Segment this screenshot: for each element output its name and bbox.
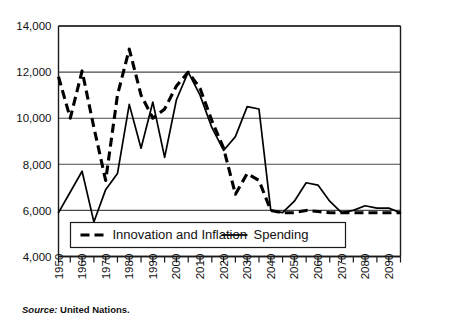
x-tick-label-2050: 2050 — [288, 254, 300, 280]
source-label: Source: — [22, 304, 57, 315]
x-tick-label-2080: 2080 — [359, 254, 371, 280]
x-tick-label-2090: 2090 — [383, 254, 395, 280]
y-tick-label-8000: 8,000 — [23, 159, 52, 171]
y-tick-label-10000: 10,000 — [16, 112, 51, 124]
x-tick-label-2000: 2000 — [170, 254, 182, 280]
x-axis-tick-labels: 1950196019701980199020002010202020302040… — [53, 254, 395, 280]
series-line-0 — [59, 49, 401, 213]
y-tick-label-12000: 12,000 — [16, 66, 51, 78]
source-note: Source: United Nations. — [22, 304, 130, 315]
x-tick-label-2060: 2060 — [312, 254, 324, 280]
x-tick-label-1970: 1970 — [100, 254, 112, 280]
chart-legend[interactable]: Innovation and InflationSpending — [71, 223, 346, 248]
y-tick-label-6000: 6,000 — [23, 205, 52, 217]
x-tick-label-2070: 2070 — [336, 254, 348, 280]
x-tick-label-1950: 1950 — [53, 254, 65, 280]
y-axis-tick-labels: 4,0006,0008,00010,00012,00014,000 — [16, 20, 51, 263]
data-series — [59, 49, 401, 222]
legend-label-1: Spending — [254, 227, 309, 242]
y-tick-label-14000: 14,000 — [16, 20, 51, 32]
line-chart: 4,0006,0008,00010,00012,00014,000 195019… — [0, 0, 450, 328]
x-tick-label-1980: 1980 — [123, 254, 135, 280]
x-tick-label-2010: 2010 — [194, 254, 206, 280]
chart-container: 4,0006,0008,00010,00012,00014,000 195019… — [0, 0, 450, 328]
x-tick-label-2030: 2030 — [241, 254, 253, 280]
x-tick-label-2020: 2020 — [218, 254, 230, 280]
series-line-1 — [59, 72, 401, 222]
source-value: United Nations. — [60, 304, 130, 315]
x-tick-label-1990: 1990 — [147, 254, 159, 280]
x-tick-label-2040: 2040 — [265, 254, 277, 280]
x-tick-label-1960: 1960 — [76, 254, 88, 280]
y-tick-label-4000: 4,000 — [23, 251, 52, 263]
